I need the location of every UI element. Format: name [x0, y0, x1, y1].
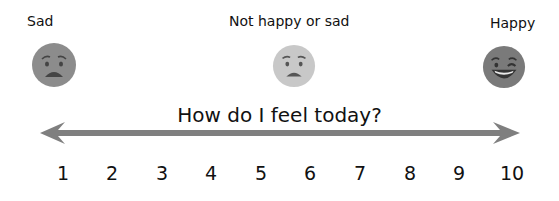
- scale-number: 5: [246, 162, 276, 184]
- scale-number: 4: [196, 162, 226, 184]
- scale-number: 1: [48, 162, 78, 184]
- neutral-label: Not happy or sad: [229, 13, 349, 29]
- scale-number: 6: [295, 162, 325, 184]
- double-arrow-line: [0, 120, 559, 152]
- sad-face-icon: [31, 42, 77, 88]
- scale-number: 2: [97, 162, 127, 184]
- scale-number: 3: [147, 162, 177, 184]
- neutral-face-icon: [272, 44, 316, 88]
- scale-number: 7: [345, 162, 375, 184]
- happy-face-icon: [482, 45, 526, 89]
- scale-number: 9: [444, 162, 474, 184]
- sad-label: Sad: [27, 13, 53, 29]
- scale-number: 8: [395, 162, 425, 184]
- happy-label: Happy: [490, 15, 535, 31]
- scale-number: 10: [497, 162, 527, 184]
